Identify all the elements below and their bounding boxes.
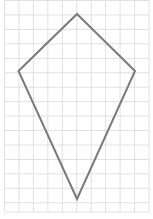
grid-lines — [5, 1, 150, 213]
kite-grid-diagram — [0, 0, 153, 219]
